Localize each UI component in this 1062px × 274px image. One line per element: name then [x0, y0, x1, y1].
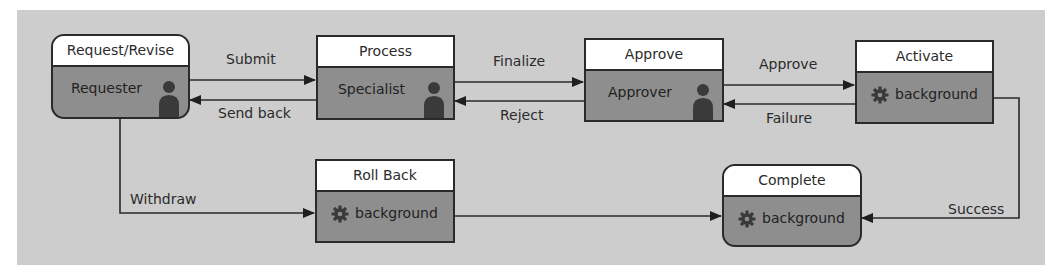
- node-role-label: Approver: [586, 84, 694, 100]
- node-role-label: Requester: [53, 80, 160, 96]
- node-roll-back[interactable]: Roll Back background: [315, 159, 455, 243]
- node-complete[interactable]: Complete background: [722, 164, 862, 247]
- edge-label-finalize: Finalize: [493, 53, 545, 69]
- node-title: Complete: [724, 166, 860, 197]
- node-process[interactable]: Process Specialist: [316, 35, 455, 120]
- node-title: Process: [318, 37, 453, 68]
- person-icon: [158, 79, 180, 117]
- edge-label-withdraw: Withdraw: [130, 191, 196, 207]
- person-icon: [423, 80, 445, 118]
- node-role-label: background: [762, 210, 845, 226]
- edge-label-failure: Failure: [766, 110, 812, 126]
- gear-icon: [331, 205, 349, 223]
- edge-label-submit: Submit: [226, 51, 276, 67]
- node-activate[interactable]: Activate background: [855, 40, 994, 124]
- node-approve[interactable]: Approve Approver: [584, 38, 724, 122]
- edge-label-success: Success: [948, 201, 1004, 217]
- node-role-label: background: [355, 205, 438, 221]
- node-title: Request/Revise: [53, 36, 188, 67]
- node-request-revise[interactable]: Request/Revise Requester: [51, 34, 190, 119]
- edge-label-approve: Approve: [759, 56, 817, 72]
- gear-icon: [871, 86, 889, 104]
- edge-label-send-back: Send back: [218, 105, 291, 121]
- person-icon: [692, 82, 714, 120]
- node-title: Approve: [586, 40, 722, 71]
- gear-icon: [738, 210, 756, 228]
- node-title: Roll Back: [317, 161, 453, 192]
- node-title: Activate: [857, 42, 992, 73]
- node-role-label: Specialist: [318, 81, 425, 97]
- edge-label-reject: Reject: [500, 107, 543, 123]
- node-role-label: background: [895, 86, 978, 102]
